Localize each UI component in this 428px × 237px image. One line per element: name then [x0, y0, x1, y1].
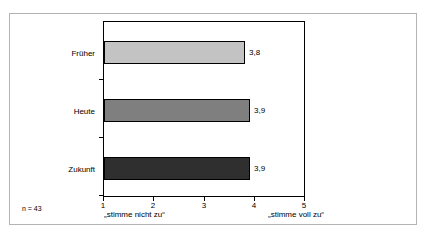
- x-axis-tick-label: 2: [151, 201, 155, 210]
- x-axis-tick-label: 3: [202, 201, 206, 210]
- scale-anchor-low-label: „stimme nicht zu“: [104, 210, 165, 219]
- category-label-heute: Heute: [40, 107, 95, 116]
- x-axis-tick-label: 5: [302, 201, 306, 210]
- bar-heute: [104, 99, 250, 122]
- sample-size-note: n = 43: [22, 205, 42, 212]
- category-label-frueher: Früher: [40, 49, 95, 58]
- y-axis-minor-tick: [99, 195, 103, 196]
- y-axis-minor-tick: [99, 137, 103, 138]
- y-axis-minor-tick: [99, 79, 103, 80]
- x-axis-tick-label: 4: [252, 201, 256, 210]
- bar-zukunft: [104, 157, 250, 180]
- scale-anchor-high-label: „stimme voll zu“: [268, 210, 324, 219]
- bar-frueher: [104, 41, 245, 64]
- chart-figure: 1 2 3 4 5 Früher 3,8 Heute 3,9 Zukunft 3…: [0, 0, 428, 237]
- bar-value-heute: 3,9: [254, 106, 265, 115]
- bar-value-zukunft: 3,9: [254, 164, 265, 173]
- category-label-zukunft: Zukunft: [40, 165, 95, 174]
- bar-value-frueher: 3,8: [249, 48, 260, 57]
- x-axis-tick-label: 1: [101, 201, 105, 210]
